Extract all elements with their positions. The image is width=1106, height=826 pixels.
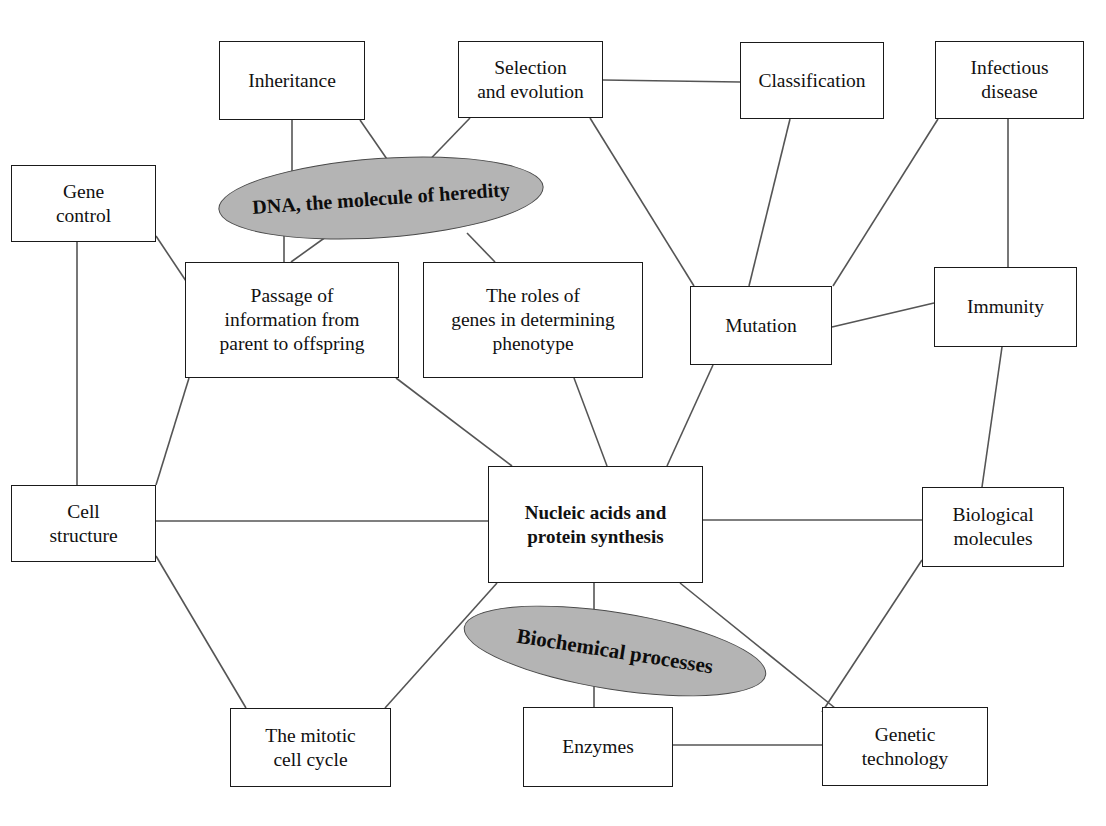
concept-map-diagram: InheritanceSelection and evolutionClassi… — [0, 0, 1106, 826]
node-label-passage: Passage of information from parent to of… — [215, 284, 370, 355]
edge-immunity-to-biomolecules — [982, 347, 1002, 487]
node-label-mitotic: The mitotic cell cycle — [260, 724, 360, 772]
node-label-genetictech: Genetic technology — [857, 723, 954, 771]
node-box-selection[interactable]: Selection and evolution — [458, 41, 603, 118]
node-box-biomolecules[interactable]: Biological molecules — [922, 487, 1064, 567]
edge-roles-to-nucleic — [574, 378, 607, 466]
node-label-enzymes: Enzymes — [557, 735, 638, 759]
node-box-genecontrol[interactable]: Gene control — [11, 165, 156, 242]
node-label-genecontrol: Gene control — [51, 180, 116, 228]
node-label-biomolecules: Biological molecules — [947, 503, 1038, 551]
node-label-nucleic: Nucleic acids and protein synthesis — [520, 501, 671, 547]
node-label-cellstructure: Cell structure — [44, 500, 122, 548]
edge-biomolecules-to-genetictech — [822, 560, 922, 712]
node-label-immunity: Immunity — [962, 295, 1049, 319]
ellipse-label-dna: DNA, the molecule of heredity — [252, 178, 511, 219]
edge-layer — [0, 0, 1106, 826]
node-label-infectious: Infectious disease — [966, 56, 1054, 104]
node-box-cellstructure[interactable]: Cell structure — [11, 485, 156, 562]
edge-passage-to-nucleic — [396, 378, 512, 466]
node-box-passage[interactable]: Passage of information from parent to of… — [185, 262, 399, 378]
node-label-classification: Classification — [753, 69, 870, 93]
node-box-genetictech[interactable]: Genetic technology — [822, 707, 988, 786]
node-box-inheritance[interactable]: Inheritance — [219, 41, 365, 120]
edge-cellstructure-to-mitotic — [156, 556, 246, 708]
node-box-immunity[interactable]: Immunity — [934, 267, 1077, 347]
node-box-roles[interactable]: The roles of genes in determining phenot… — [423, 262, 643, 378]
node-label-roles: The roles of genes in determining phenot… — [446, 284, 620, 355]
edge-dna-to-roles — [467, 233, 495, 262]
ellipse-label-biochemical: Biochemical processes — [515, 623, 715, 679]
node-box-mutation[interactable]: Mutation — [690, 286, 832, 365]
edge-mutation-to-immunity — [832, 303, 934, 327]
edge-classification-to-mutation — [749, 119, 790, 286]
node-box-nucleic[interactable]: Nucleic acids and protein synthesis — [488, 466, 703, 583]
node-label-inheritance: Inheritance — [243, 69, 341, 93]
edge-infectious-to-mutation — [833, 119, 938, 286]
edge-selection-to-mutation — [590, 118, 694, 286]
node-box-infectious[interactable]: Infectious disease — [935, 41, 1084, 119]
node-box-enzymes[interactable]: Enzymes — [523, 707, 673, 787]
node-box-mitotic[interactable]: The mitotic cell cycle — [230, 708, 391, 787]
edge-mutation-to-nucleic — [667, 365, 713, 466]
edge-passage-to-cellstructure — [156, 378, 189, 485]
node-label-selection: Selection and evolution — [472, 56, 589, 104]
node-box-classification[interactable]: Classification — [740, 42, 884, 119]
node-label-mutation: Mutation — [720, 314, 802, 338]
edge-selection-to-classification — [603, 80, 740, 82]
